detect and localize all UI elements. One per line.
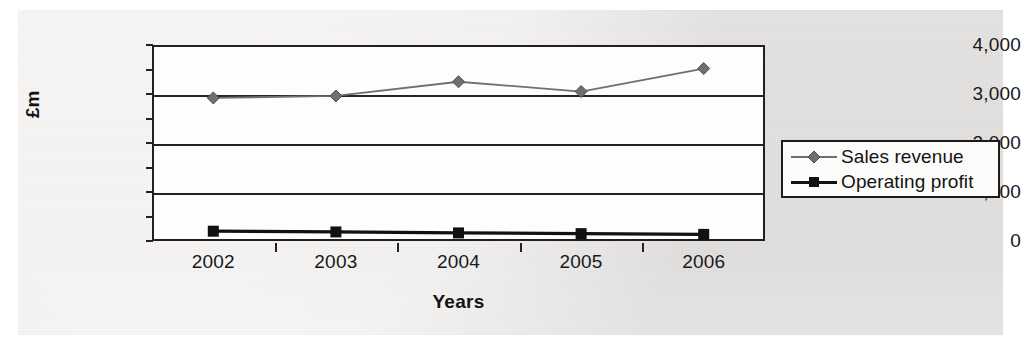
y-tick-label: 3,000: [935, 84, 1021, 103]
x-tick-label: 2004: [414, 252, 504, 271]
legend-entry-operating-profit: Operating profit: [791, 169, 974, 194]
x-tick-label: 2002: [168, 252, 258, 271]
x-tick-label: 2005: [536, 252, 626, 271]
chart-legend: Sales revenue Operating profit: [781, 140, 1000, 198]
chart-page: £m 01,0002,0003,0004,000 200220032004200…: [0, 0, 1021, 349]
x-tick-label: 2006: [659, 252, 749, 271]
y-tick-label: 0: [935, 231, 1021, 250]
data-point-diamond-marker: [698, 63, 710, 75]
diamond-marker-icon: [791, 148, 837, 166]
series-sales-revenue: [207, 63, 709, 104]
data-point-diamond-marker: [575, 86, 587, 98]
data-series-layer: [152, 45, 765, 241]
x-axis-title: Years: [152, 291, 765, 313]
data-point-square-marker: [576, 228, 587, 239]
data-point-diamond-marker: [207, 92, 219, 104]
x-tick-mark: [642, 243, 644, 252]
data-point-diamond-marker: [330, 90, 342, 102]
x-tick-label: 2003: [291, 252, 381, 271]
x-tick-mark: [520, 243, 522, 252]
data-point-square-marker: [208, 226, 219, 237]
data-point-diamond-marker: [453, 76, 465, 88]
x-tick-mark: [275, 243, 277, 252]
legend-entry-sales-revenue: Sales revenue: [791, 144, 964, 169]
data-point-square-marker: [330, 226, 341, 237]
legend-label-sales-revenue: Sales revenue: [837, 147, 964, 166]
y-tick-label: 4,000: [935, 35, 1021, 54]
y-axis-title: £m: [22, 91, 44, 118]
square-marker-icon: [791, 173, 837, 191]
legend-label-operating-profit: Operating profit: [837, 172, 974, 191]
series-operating-profit: [208, 226, 709, 240]
x-tick-mark: [397, 243, 399, 252]
data-point-square-marker: [698, 229, 709, 240]
data-point-square-marker: [453, 227, 464, 238]
